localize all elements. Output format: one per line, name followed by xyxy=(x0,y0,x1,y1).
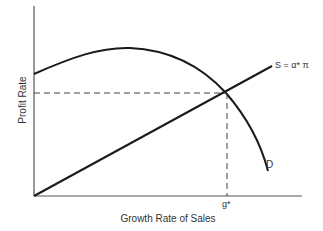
equilibrium-growth-tick-label: g* xyxy=(222,199,231,209)
supply-line-label: S = α* π xyxy=(275,60,309,70)
x-axis-label: Growth Rate of Sales xyxy=(120,213,215,224)
demand-curve-d xyxy=(34,48,268,171)
supply-line-s xyxy=(34,66,272,196)
demand-curve-label: D xyxy=(266,159,273,170)
y-axis-label: Profit Rate xyxy=(17,76,28,124)
growth-profit-diagram: S = α* π D g* Growth Rate of Sales Profi… xyxy=(0,0,323,231)
